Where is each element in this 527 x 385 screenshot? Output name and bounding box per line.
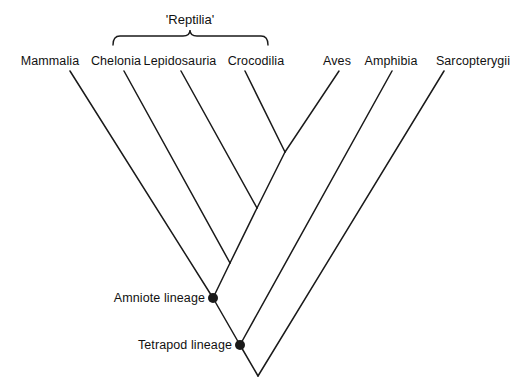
- tip-label-amphibia: Amphibia: [365, 55, 418, 68]
- tip-label-chelonia: Chelonia: [91, 55, 141, 68]
- amniote-node-label: Amniote lineage: [114, 292, 205, 305]
- tip-label-lepidosauria: Lepidosauria: [144, 55, 217, 68]
- tip-label-crocodilia: Crocodilia: [228, 55, 285, 68]
- crocodilia-branch: [245, 71, 285, 152]
- reptilia-stem: [230, 208, 257, 263]
- tetrapod-stem: [240, 345, 258, 376]
- archosauria-stem: [257, 152, 285, 208]
- mammalia-branch: [70, 71, 213, 298]
- amphibia-branch: [240, 71, 392, 345]
- cladogram-figure: 'Reptilia' MammaliaCheloniaLepidosauriaC…: [0, 0, 527, 385]
- tetrapod-node-label: Tetrapod lineage: [138, 339, 232, 352]
- branch-lines: [70, 71, 444, 376]
- diapsid-stem: [213, 263, 230, 298]
- reptilia-bracket-path: [113, 30, 268, 45]
- group-label-reptilia: 'Reptilia': [166, 12, 214, 27]
- tetrapod-node-dot: [235, 340, 245, 350]
- sarcopterygii-branch: [258, 71, 444, 376]
- chelonia-branch: [124, 71, 230, 263]
- lepidosauria-branch: [181, 71, 257, 208]
- amniote-node-dot: [208, 293, 218, 303]
- tip-label-aves: Aves: [323, 55, 351, 68]
- aves-branch: [285, 71, 339, 152]
- reptilia-bracket: [113, 30, 268, 45]
- tip-label-mammalia: Mammalia: [21, 55, 79, 68]
- tip-label-sarcopterygii: Sarcopterygii: [436, 55, 510, 68]
